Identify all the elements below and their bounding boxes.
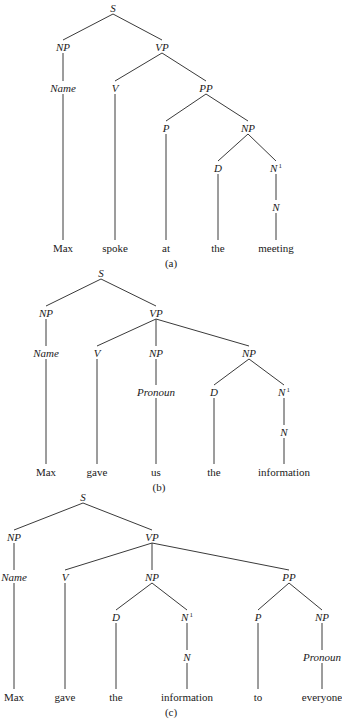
leaf-word: information — [258, 466, 310, 478]
leaf-word: gave — [87, 466, 108, 478]
superscript: 1 — [189, 611, 193, 619]
leaf-word: meeting — [258, 242, 294, 254]
tree-edge — [152, 543, 289, 570]
category-node: NP — [6, 531, 21, 543]
leaf-word: Max — [36, 466, 57, 478]
category-node: NP — [55, 41, 70, 53]
leaf-word: information — [161, 691, 213, 703]
tree-edge — [218, 134, 248, 161]
tree-edge — [152, 583, 187, 610]
category-node: VP — [155, 41, 169, 53]
subfigure-caption: (a) — [165, 257, 178, 270]
category-node: N — [279, 426, 288, 438]
superscript: 1 — [278, 162, 282, 170]
category-node: PP — [198, 82, 213, 94]
tree-edge — [46, 279, 101, 306]
subfigure-caption: (c) — [165, 706, 178, 719]
category-node: Name — [32, 347, 59, 359]
tree-edge — [166, 94, 206, 121]
tree-edges — [14, 503, 322, 689]
leaf-word: us — [151, 466, 161, 478]
leaf-word: Max — [53, 242, 74, 254]
parse-tree-figure: SNPVPNameVPPPNPDN1NMaxspokeatthemeeting(… — [0, 0, 342, 721]
tree-edge — [14, 503, 83, 530]
tree-edge — [289, 583, 322, 610]
superscript: 1 — [286, 386, 290, 394]
category-node: S — [98, 267, 104, 279]
category-node: N — [182, 651, 191, 663]
category-node: N1 — [277, 386, 290, 398]
category-node: V — [62, 571, 70, 583]
tree-edge — [258, 583, 289, 610]
tree-edges — [46, 279, 284, 464]
category-node: D — [213, 162, 222, 174]
parse-tree-c: SNPVPNameVNPPPDN1PNPNPronounMaxgavethein… — [0, 491, 342, 719]
subfigure-caption: (b) — [153, 481, 166, 494]
category-node: P — [162, 122, 170, 134]
category-node: Name — [49, 82, 76, 94]
tree-edge — [162, 53, 206, 81]
tree-edge — [63, 14, 113, 40]
tree-edge — [83, 503, 152, 530]
category-node: Name — [0, 571, 27, 583]
tree-edge — [101, 279, 156, 306]
category-node: N1 — [269, 162, 282, 174]
category-node: N1 — [180, 611, 193, 623]
tree-edge — [156, 319, 249, 346]
leaf-word: to — [254, 691, 263, 703]
parse-tree-a: SNPVPNameVPPPNPDN1NMaxspokeatthemeeting(… — [49, 2, 294, 270]
leaf-word: the — [207, 466, 221, 478]
tree-edge — [115, 53, 162, 81]
category-node: NP — [148, 347, 163, 359]
category-node: Pronoun — [136, 386, 176, 398]
tree-edge — [116, 583, 152, 610]
tree-edge — [97, 319, 156, 346]
category-node: VP — [145, 531, 159, 543]
category-node: NP — [240, 122, 255, 134]
tree-edge — [113, 14, 162, 40]
category-node: PP — [281, 571, 296, 583]
category-node: V — [112, 82, 120, 94]
category-node: S — [110, 2, 116, 14]
tree-edge — [65, 543, 152, 570]
leaf-word: gave — [55, 691, 76, 703]
category-node: NP — [38, 307, 53, 319]
category-node: D — [209, 386, 218, 398]
category-node: D — [111, 611, 120, 623]
leaf-word: spoke — [102, 242, 128, 254]
category-node: P — [254, 611, 262, 623]
category-node: V — [94, 347, 102, 359]
tree-edge — [249, 359, 284, 385]
leaf-word: Max — [4, 691, 25, 703]
parse-tree-b: SNPVPNameVNPNPPronounDN1NMaxgaveustheinf… — [32, 267, 310, 494]
leaf-word: the — [211, 242, 225, 254]
category-node: Pronoun — [302, 651, 342, 663]
category-node: NP — [314, 611, 329, 623]
leaf-word: the — [109, 691, 123, 703]
leaf-word: everyone — [302, 691, 342, 703]
category-node: NP — [144, 571, 159, 583]
tree-edge — [248, 134, 276, 161]
tree-edge — [214, 359, 249, 385]
category-node: S — [80, 491, 86, 503]
category-node: NP — [241, 347, 256, 359]
leaf-word: at — [162, 242, 170, 254]
category-node: VP — [149, 307, 163, 319]
tree-edge — [206, 94, 248, 121]
category-node: N — [271, 201, 280, 213]
